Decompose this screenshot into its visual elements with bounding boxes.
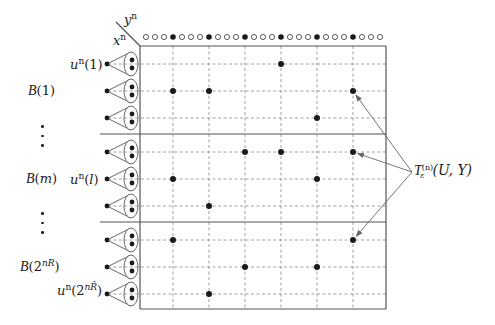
jointly-typical-point [314, 176, 320, 182]
xn-dot [130, 288, 135, 293]
yn-open-circle [305, 34, 310, 39]
xn-dot [130, 261, 135, 266]
typical-set-arrow [358, 154, 412, 172]
jointly-typical-point [170, 176, 176, 182]
xn-dot [130, 269, 135, 274]
yn-filled-circle [206, 34, 212, 40]
yn-open-circle [224, 34, 229, 39]
xn-dot [130, 85, 135, 90]
jointly-typical-point [170, 237, 176, 243]
xn-dot [130, 234, 135, 239]
yn-open-circle [143, 34, 148, 39]
jointly-typical-point [278, 149, 284, 155]
vertical-ellipsis-lower [41, 212, 45, 241]
typical-set-arrow [356, 172, 412, 236]
diagram-canvas: yn xn un(1) un(l) un(2nR̃) B(1) B(m) B(2… [0, 0, 495, 325]
un-codeword-dot [105, 150, 110, 155]
yn-open-circle [341, 34, 346, 39]
jointly-typical-point [206, 291, 212, 297]
yn-filled-circle [278, 34, 284, 40]
yn-filled-circle [170, 34, 176, 40]
codeword-label-un-2nR-tilde: un(2nR̃) [57, 283, 102, 297]
un-codeword-dot [105, 89, 110, 94]
xn-dot [130, 146, 135, 151]
yn-open-circle [368, 34, 373, 39]
xn-axis-label: xn [113, 33, 126, 47]
un-codeword-dot [105, 204, 110, 209]
xn-dot [130, 181, 135, 186]
bin-label-Bm: B(m) [26, 172, 57, 186]
yn-open-circle [197, 34, 202, 39]
jointly-typical-point [170, 88, 176, 94]
xn-dot [130, 120, 135, 125]
yn-open-circle [233, 34, 238, 39]
yn-open-circle [161, 34, 166, 39]
xn-dot [130, 93, 135, 98]
yn-open-circle [377, 34, 382, 39]
yn-open-circle [188, 34, 193, 39]
jointly-typical-point [242, 264, 248, 270]
xn-dot [130, 296, 135, 301]
yn-open-circle [287, 34, 292, 39]
xn-dot [130, 173, 135, 178]
xn-dot [130, 58, 135, 63]
un-codeword-dot [105, 116, 110, 121]
jointly-typical-point [314, 115, 320, 121]
yn-open-circle [359, 34, 364, 39]
jointly-typical-point [206, 88, 212, 94]
vertical-ellipsis-upper [41, 125, 45, 154]
un-codeword-dot [105, 292, 110, 297]
un-codeword-dot [105, 177, 110, 182]
bin-label-B1: B(1) [28, 84, 55, 98]
yn-filled-circle [350, 34, 356, 40]
codeword-label-un-1: un(1) [70, 57, 103, 71]
jointly-typical-point [206, 203, 212, 209]
xn-dot [130, 200, 135, 205]
xn-dot [130, 154, 135, 159]
un-codeword-dot [105, 265, 110, 270]
yn-open-circle [179, 34, 184, 39]
yn-open-circle [269, 34, 274, 39]
yn-open-circle [323, 34, 328, 39]
jointly-typical-point [278, 61, 284, 67]
yn-open-circle [251, 34, 256, 39]
yn-open-circle [152, 34, 157, 39]
xn-dot [130, 112, 135, 117]
bin-label-B2nR: B(2nR) [20, 259, 60, 274]
xn-dot [130, 208, 135, 213]
yn-open-circle [296, 34, 301, 39]
yn-open-circle [260, 34, 265, 39]
jointly-typical-point [314, 264, 320, 270]
jointly-typical-point [242, 149, 248, 155]
jointly-typical-point [350, 237, 356, 243]
xn-dot [130, 242, 135, 247]
un-codeword-dot [105, 62, 110, 67]
un-codeword-dot [105, 238, 110, 243]
typical-set-label: T(n)ε(U, Y) [414, 163, 472, 180]
xn-dot [130, 66, 135, 71]
yn-open-circle [215, 34, 220, 39]
jointly-typical-point [350, 149, 356, 155]
jointly-typical-point [350, 88, 356, 94]
codeword-label-un-l: un(l) [70, 172, 99, 186]
yn-filled-circle [242, 34, 248, 40]
yn-open-circle [332, 34, 337, 39]
yn-axis-label: yn [124, 12, 137, 26]
yn-filled-circle [314, 34, 320, 40]
